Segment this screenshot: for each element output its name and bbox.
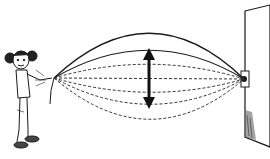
diagram-canvas (0, 0, 270, 159)
girl-figure-icon (5, 51, 54, 148)
